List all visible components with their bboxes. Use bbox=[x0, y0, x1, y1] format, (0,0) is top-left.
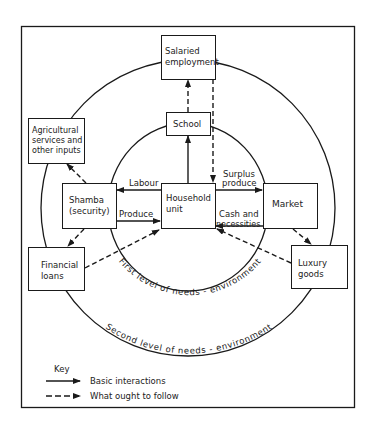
outer-ring-label: Second level of needs - environment bbox=[104, 321, 274, 355]
node-text: Market bbox=[272, 199, 317, 210]
edge-label-cash-1: Cash and bbox=[219, 209, 259, 219]
node-text: (security) bbox=[69, 206, 116, 217]
node-text: services and bbox=[32, 136, 84, 146]
node-household-unit: Household unit bbox=[161, 183, 216, 229]
arrow-market-luxury bbox=[293, 229, 311, 244]
node-text: employment bbox=[165, 57, 215, 68]
key-solid-label: Basic interactions bbox=[90, 376, 166, 386]
key-dashed-label: What ought to follow bbox=[90, 391, 179, 401]
arrow-shamba-agricultural bbox=[67, 164, 86, 183]
node-text: Household bbox=[166, 193, 215, 204]
node-school: School bbox=[166, 112, 211, 136]
edge-label-produce: Produce bbox=[119, 209, 153, 219]
node-financial-loans: Financial loans bbox=[28, 247, 85, 291]
node-text: Salaried bbox=[165, 46, 215, 57]
node-market: Market bbox=[263, 183, 318, 229]
node-salaried-employment: Salaried employment bbox=[161, 35, 216, 80]
node-luxury-goods: Luxury goods bbox=[291, 245, 348, 289]
arrow-shamba-financial bbox=[68, 229, 84, 246]
key-title: Key bbox=[54, 364, 69, 374]
edge-label-surplus-2: produce bbox=[222, 178, 257, 188]
node-text: School bbox=[173, 119, 210, 130]
node-text: unit bbox=[166, 204, 215, 215]
node-text: Agricultural bbox=[32, 126, 84, 136]
node-text: goods bbox=[298, 269, 347, 280]
edge-label-labour: Labour bbox=[129, 178, 158, 188]
node-text: Luxury bbox=[298, 258, 347, 269]
node-agricultural-services: Agricultural services and other inputs bbox=[28, 118, 85, 164]
node-text: other inputs bbox=[32, 146, 84, 156]
node-text: Shamba bbox=[69, 195, 116, 206]
node-text: Financial bbox=[41, 260, 84, 271]
node-shamba: Shamba (security) bbox=[62, 183, 117, 229]
inner-ring-label: First level of needs - environment bbox=[117, 256, 263, 297]
edge-label-cash-2: necessities bbox=[216, 220, 260, 230]
node-text: loans bbox=[41, 271, 84, 282]
